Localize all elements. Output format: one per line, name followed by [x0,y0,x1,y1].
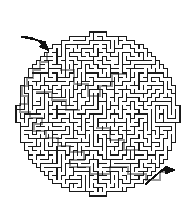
maze-wall-layer [16,32,180,196]
maze-figure [0,0,192,219]
maze-walls [16,32,180,196]
maze-canvas [0,0,192,219]
